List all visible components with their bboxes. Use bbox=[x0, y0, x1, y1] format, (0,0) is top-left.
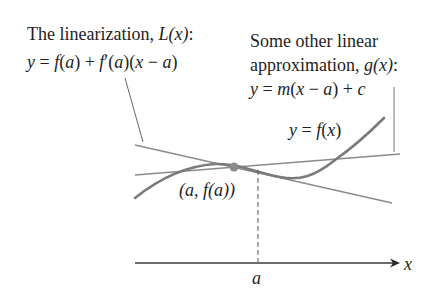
tangent-point bbox=[230, 163, 239, 172]
tick-label-a: a bbox=[252, 268, 261, 288]
other-linear-line bbox=[135, 154, 400, 175]
linearization-leader-line bbox=[125, 78, 143, 142]
svg-text:The linearization, L(x):: The linearization, L(x): bbox=[27, 24, 193, 45]
point-label: (a, f(a)) bbox=[179, 180, 235, 201]
linearization-symbol: L(x) bbox=[157, 24, 188, 45]
other-approx-line2: approximation, g(x): bbox=[250, 55, 398, 76]
linearization-equation: y = f(a) + f′(a)(x − a) bbox=[25, 52, 177, 73]
other-approx-line1: Some other linear bbox=[250, 31, 378, 51]
x-axis-label: x bbox=[403, 254, 412, 274]
curve-label: y = f(x) bbox=[287, 120, 341, 141]
other-approx-equation: y = m(x − a) + c bbox=[248, 79, 365, 100]
linearization-title: The linearization, bbox=[27, 24, 158, 44]
linearization-diagram: The linearization, L(x): y = f(a) + f′(a… bbox=[0, 0, 435, 297]
